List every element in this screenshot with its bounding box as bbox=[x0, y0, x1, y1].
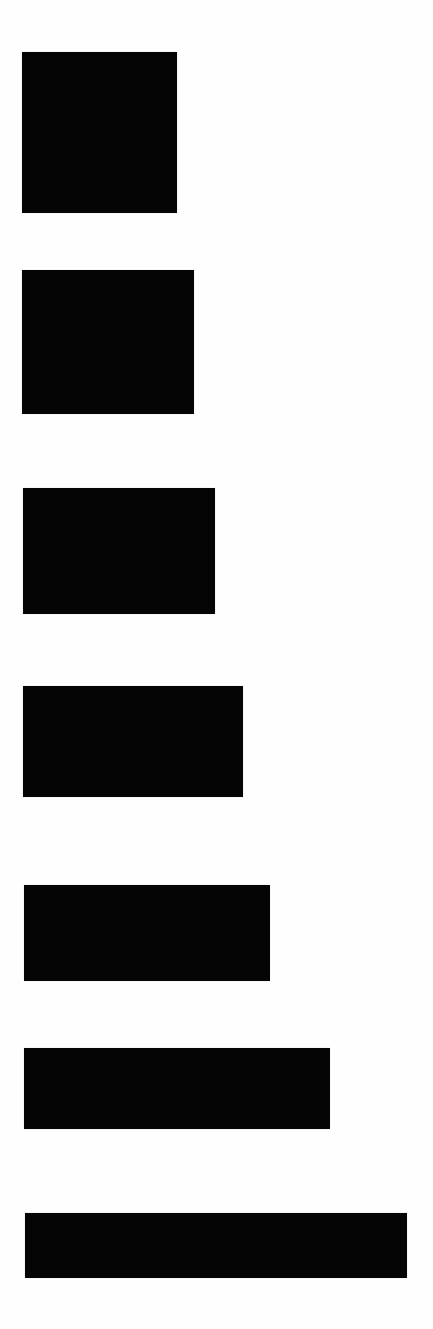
diagram-canvas bbox=[0, 0, 433, 1329]
rectangle-1 bbox=[22, 52, 177, 213]
rectangle-5 bbox=[24, 885, 270, 981]
rectangle-2 bbox=[22, 270, 194, 414]
rectangle-3 bbox=[23, 488, 215, 614]
rectangle-6 bbox=[24, 1048, 330, 1129]
rectangle-4 bbox=[23, 686, 243, 797]
rectangle-7 bbox=[25, 1213, 407, 1278]
